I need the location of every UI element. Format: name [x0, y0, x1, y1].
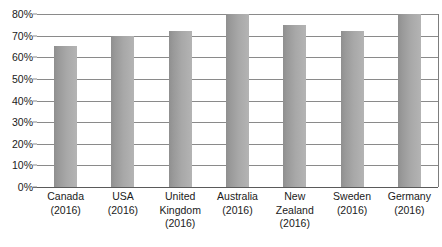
- x-axis-baseline: [33, 187, 438, 188]
- x-axis-tick-label: Sweden(2016): [324, 190, 381, 217]
- x-axis-category-name: Sweden: [324, 190, 381, 204]
- bar: [169, 31, 192, 187]
- x-axis-category-name: Canada: [37, 190, 94, 204]
- y-axis-tick-mark: [33, 14, 37, 15]
- x-axis-category-name: United Kingdom: [152, 190, 209, 217]
- y-axis-tick-mark: [33, 143, 37, 144]
- y-axis-tick-mark: [33, 78, 37, 79]
- y-axis-tick-label: 30%: [0, 117, 33, 128]
- x-axis-category-year: (2016): [37, 204, 94, 218]
- x-axis-tick-label: Australia(2016): [209, 190, 266, 217]
- y-axis-tick-label: 20%: [0, 139, 33, 150]
- y-axis-tick-mark: [33, 122, 37, 123]
- y-axis-tick-mark: [33, 35, 37, 36]
- x-axis-tick-label: USA(2016): [94, 190, 151, 217]
- x-axis-tick-label: United Kingdom(2016): [152, 190, 209, 231]
- x-axis-category-name: Germany: [381, 190, 438, 204]
- x-axis-category-year: (2016): [152, 217, 209, 231]
- x-axis-category-name: USA: [94, 190, 151, 204]
- y-axis-tick-mark: [33, 100, 37, 101]
- x-axis-category-year: (2016): [266, 217, 323, 231]
- y-axis-tick-label: 80%: [0, 9, 33, 20]
- y-axis-tick-label: 70%: [0, 30, 33, 41]
- bars-layer: [37, 14, 438, 187]
- bar: [283, 25, 306, 187]
- y-axis-tick-label: 60%: [0, 52, 33, 63]
- y-axis-tick-mark: [33, 187, 37, 188]
- y-axis-tick-mark: [33, 165, 37, 166]
- bar: [226, 14, 249, 187]
- x-axis-category-name: New Zealand: [266, 190, 323, 217]
- x-axis-category-year: (2016): [94, 204, 151, 218]
- bar-chart: 80%70%60%50%40%30%20%10%0% Canada(2016)U…: [0, 0, 442, 247]
- y-axis-tick-mark: [33, 57, 37, 58]
- x-axis-category-year: (2016): [209, 204, 266, 218]
- x-axis-tick-label: New Zealand(2016): [266, 190, 323, 231]
- bar: [398, 14, 421, 187]
- x-axis-tick-label: Canada(2016): [37, 190, 94, 217]
- bar: [54, 46, 77, 187]
- y-axis-tick-label: 50%: [0, 74, 33, 85]
- x-axis: Canada(2016)USA(2016)United Kingdom(2016…: [37, 190, 438, 247]
- x-axis-tick-label: Germany(2016): [381, 190, 438, 217]
- y-axis-tick-label: 10%: [0, 160, 33, 171]
- x-axis-category-name: Australia: [209, 190, 266, 204]
- y-axis: 80%70%60%50%40%30%20%10%0%: [0, 0, 33, 247]
- x-axis-category-year: (2016): [324, 204, 381, 218]
- y-axis-tick-label: 40%: [0, 95, 33, 106]
- x-axis-category-year: (2016): [381, 204, 438, 218]
- y-axis-tick-label: 0%: [0, 182, 33, 193]
- bar: [111, 36, 134, 187]
- bar: [341, 31, 364, 187]
